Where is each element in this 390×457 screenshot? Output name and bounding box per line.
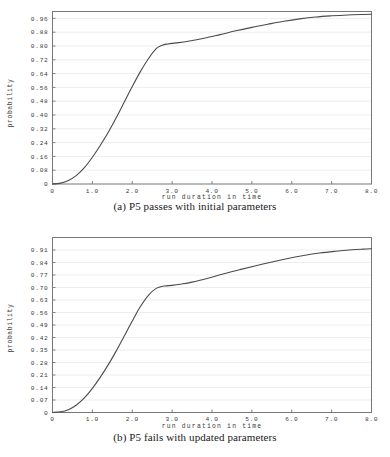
- x-axis-ticks-b: 01.02.03.04.05.06.07.08.0: [50, 410, 378, 424]
- subfigure-b-caption: (b) P5 fails with updated parameters: [0, 431, 390, 444]
- subfigure-a-caption: (a) P5 passes with initial parameters: [0, 200, 390, 213]
- x-tick-label: 8.0: [365, 188, 378, 195]
- y-axis-ticks-a: 00.080.160.240.320.400.480.560.640.720.8…: [31, 16, 56, 189]
- y-tick-label: 0.56: [31, 85, 49, 92]
- y-tick-label: 0.56: [31, 310, 49, 317]
- y-tick-label: 0.77: [31, 272, 49, 279]
- x-tick-label: 6.0: [285, 416, 298, 423]
- y-tick-label: 0.32: [31, 126, 49, 133]
- y-tick-label: 0.08: [31, 167, 49, 174]
- y-tick-label: 0.70: [31, 285, 49, 292]
- plot-area-b: 00.070.140.210.280.350.420.490.560.630.7…: [0, 228, 390, 430]
- y-tick-label: 0.63: [31, 297, 49, 304]
- x-axis-title-b: run duration in time: [162, 423, 263, 430]
- y-tick-label: 0.21: [31, 372, 49, 379]
- x-tick-label: 4.0: [205, 416, 218, 423]
- subfigure-a: 00.080.160.240.320.400.480.560.640.720.8…: [0, 0, 390, 228]
- plot-area-a: 00.080.160.240.320.400.480.560.640.720.8…: [0, 0, 390, 200]
- y-tick-label: 0.49: [31, 322, 49, 329]
- x-tick-label: 7.0: [325, 188, 338, 195]
- gridlines-a: [53, 18, 372, 170]
- y-tick-label: 0.88: [31, 29, 49, 36]
- y-tick-label: 0.42: [31, 335, 49, 342]
- x-tick-label: 2.0: [126, 416, 139, 423]
- y-tick-label: 0.48: [31, 98, 49, 105]
- y-tick-label: 0.91: [31, 247, 49, 254]
- y-axis-ticks-b: 00.070.140.210.280.350.420.490.560.630.7…: [31, 247, 56, 417]
- x-tick-label: 7.0: [325, 416, 338, 423]
- x-tick-label: 3.0: [166, 416, 179, 423]
- y-tick-label: 0: [44, 410, 48, 417]
- y-tick-label: 0.28: [31, 360, 49, 367]
- x-axis-ticks-a: 01.02.03.04.05.06.07.08.0: [50, 181, 378, 195]
- y-tick-label: 0.14: [31, 385, 49, 392]
- line-chart-a: 00.080.160.240.320.400.480.560.640.720.8…: [0, 0, 390, 200]
- y-tick-label: 0.80: [31, 43, 49, 50]
- x-tick-label: 2.0: [126, 188, 139, 195]
- figure-page: 00.080.160.240.320.400.480.560.640.720.8…: [0, 0, 390, 457]
- x-tick-label: 1.0: [86, 416, 99, 423]
- y-tick-label: 0.64: [31, 71, 49, 78]
- y-tick-label: 0: [44, 181, 48, 188]
- subfigure-b: 00.070.140.210.280.350.420.490.560.630.7…: [0, 228, 390, 457]
- y-tick-label: 0.84: [31, 260, 49, 267]
- x-tick-label: 6.0: [285, 188, 298, 195]
- x-tick-label: 5.0: [245, 416, 258, 423]
- line-chart-b: 00.070.140.210.280.350.420.490.560.630.7…: [0, 228, 390, 430]
- x-tick-label: 0: [50, 416, 54, 423]
- y-axis-title-a: probability: [7, 79, 14, 128]
- x-tick-label: 8.0: [365, 416, 378, 423]
- plot-frame-a: [53, 12, 372, 185]
- y-axis-title-b: probability: [7, 304, 14, 353]
- y-tick-label: 0.07: [31, 397, 49, 404]
- y-tick-label: 0.16: [31, 154, 49, 161]
- data-line-a: [53, 14, 372, 184]
- x-tick-label: 0: [50, 188, 54, 195]
- x-tick-label: 1.0: [86, 188, 99, 195]
- y-tick-label: 0.24: [31, 140, 49, 147]
- y-tick-label: 0.72: [31, 57, 49, 64]
- y-tick-label: 0.40: [31, 112, 49, 119]
- data-line-b: [53, 249, 372, 413]
- x-axis-title-a: run duration in time: [162, 194, 263, 200]
- y-tick-label: 0.96: [31, 16, 49, 23]
- y-tick-label: 0.35: [31, 347, 49, 354]
